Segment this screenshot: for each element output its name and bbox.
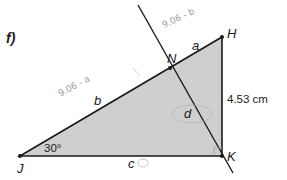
angle-label-j: 30°	[44, 143, 61, 155]
side-label-c: c	[128, 157, 135, 170]
vertex-label-h: H	[227, 27, 236, 40]
side-label-d: d	[184, 107, 191, 120]
handwritten-circle-c	[138, 159, 148, 167]
vertex-label-k: K	[227, 150, 236, 163]
handwritten-mark	[133, 68, 140, 76]
part-label: f)	[6, 31, 15, 45]
side-label-a: a	[192, 39, 199, 52]
triangle-jhk	[20, 37, 222, 156]
side-label-b: b	[94, 94, 101, 107]
vertex-label-n: N	[167, 52, 176, 65]
vertex-dot-n	[168, 66, 172, 70]
vertex-dot-j	[18, 154, 22, 158]
side-length-hk: 4.53 cm	[227, 94, 268, 106]
vertex-dot-h	[220, 35, 224, 39]
vertex-label-j: J	[17, 162, 24, 175]
vertex-dot-k	[220, 154, 224, 158]
